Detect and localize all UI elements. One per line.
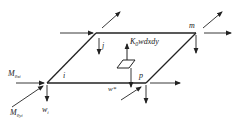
node-label-m: m <box>189 21 195 30</box>
foundation-force-label: K0wdxdy <box>129 37 159 47</box>
differential-element <box>117 44 135 68</box>
node-p-arrows <box>121 68 180 103</box>
arrow-icon <box>12 86 43 107</box>
plate-element-diagram: j m i p K0wdxdy Mθxi Mθyi wi w* <box>0 0 245 123</box>
arrow-icon <box>102 12 120 28</box>
node-i-arrows <box>12 83 47 107</box>
arrow-icon <box>121 87 141 100</box>
node-label-p: p <box>138 71 143 80</box>
moment-x-label: Mθxi <box>7 69 21 79</box>
deflection-i-label: wi <box>42 105 49 115</box>
node-m-arrows <box>196 12 231 53</box>
arrow-icon <box>203 12 222 28</box>
moment-y-label: Mθyi <box>9 108 23 118</box>
node-label-i: i <box>63 71 65 80</box>
deflection-star-label: w* <box>108 85 117 93</box>
diagram-svg: j m i p K0wdxdy Mθxi Mθyi wi w* <box>0 0 245 123</box>
plate-element <box>47 33 196 83</box>
node-label-j: j <box>101 41 105 50</box>
